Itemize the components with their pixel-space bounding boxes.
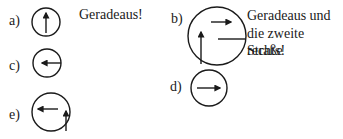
sign-c-left-icon <box>33 49 61 77</box>
caption-b-line-3: rechts! <box>247 42 285 59</box>
caption-a: Geradeaus! <box>79 6 143 23</box>
caption-b-line-1: Geradeaus und <box>247 7 331 24</box>
label-c: c) <box>9 58 20 74</box>
label-e: e) <box>9 107 20 123</box>
sign-a-straight-icon <box>32 8 60 36</box>
label-b: b) <box>171 11 183 27</box>
sign-e-straight-left-icon <box>32 93 70 131</box>
label-a: a) <box>9 13 20 29</box>
sign-b-straight-second-right-icon <box>188 7 246 65</box>
label-d: d) <box>170 79 182 95</box>
sign-d-right-icon <box>191 70 227 106</box>
